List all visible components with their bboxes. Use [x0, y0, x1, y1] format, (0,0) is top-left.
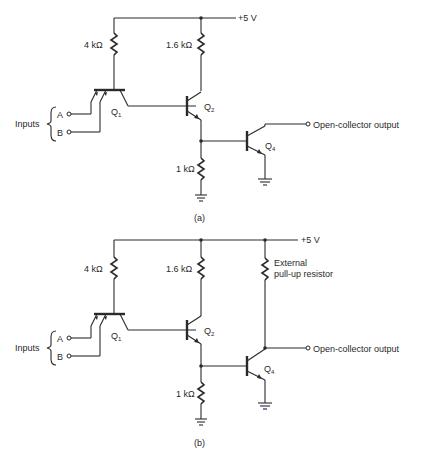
- input-b-label: B: [57, 352, 63, 362]
- resistor-1k-label: 1 kΩ: [176, 164, 195, 174]
- transistor-q2: [187, 92, 201, 141]
- resistor-pull-up: [262, 258, 268, 280]
- resistor-1-6k: [198, 257, 204, 279]
- transistor-q1: [91, 314, 196, 356]
- panel-a: +5 V 4 kΩ 1.6 kΩ Q1 A: [15, 13, 400, 223]
- output-terminal[interactable]: [306, 122, 310, 126]
- input-a-label: A: [57, 334, 63, 344]
- transistor-q2: [187, 316, 201, 366]
- input-brace: [47, 107, 56, 141]
- panel-b: +5 V 4 kΩ 1.6 kΩ External pull-up resist…: [15, 235, 400, 448]
- inputs-label: Inputs: [15, 119, 40, 129]
- pullup-label-line1: External: [274, 258, 307, 268]
- input-b-label: B: [57, 128, 63, 138]
- transistor-q1: [91, 90, 196, 132]
- input-a-label: A: [57, 110, 63, 120]
- resistor-1-6k: [198, 33, 204, 55]
- q4-label: Q4: [265, 141, 276, 152]
- output-terminal[interactable]: [306, 346, 310, 350]
- input-a-terminal[interactable]: [67, 336, 71, 340]
- resistor-1-6k-label: 1.6 kΩ: [166, 40, 193, 50]
- input-b-terminal[interactable]: [67, 354, 71, 358]
- transistor-q4: [247, 124, 306, 179]
- open-collector-ttl-diagram: +5 V 4 kΩ 1.6 kΩ Q1 A: [0, 0, 424, 455]
- ground-icon: [195, 419, 207, 425]
- resistor-1-6k-label: 1.6 kΩ: [166, 264, 193, 274]
- supply-label: +5 V: [238, 13, 257, 23]
- q1-label: Q1: [111, 107, 122, 118]
- inputs-label: Inputs: [15, 343, 40, 353]
- output-label: Open-collector output: [313, 344, 400, 354]
- resistor-1k: [198, 382, 204, 404]
- ground-icon: [195, 195, 207, 201]
- resistor-1k: [198, 158, 204, 180]
- q2-label: Q2: [204, 326, 215, 337]
- resistor-4k: [111, 33, 117, 55]
- ground-icon: [258, 403, 272, 409]
- q2-label: Q2: [204, 102, 215, 113]
- pullup-label-line2: pull-up resistor: [274, 269, 333, 279]
- panel-caption: (a): [194, 213, 205, 223]
- panel-caption: (b): [194, 438, 205, 448]
- resistor-4k-label: 4 kΩ: [84, 264, 103, 274]
- input-brace: [47, 331, 56, 365]
- supply-label: +5 V: [301, 235, 320, 245]
- q4-label: Q4: [264, 364, 275, 375]
- resistor-4k: [111, 257, 117, 279]
- transistor-q4: [247, 346, 306, 403]
- output-label: Open-collector output: [313, 120, 400, 130]
- ground-icon: [258, 179, 272, 185]
- resistor-4k-label: 4 kΩ: [84, 40, 103, 50]
- input-a-terminal[interactable]: [67, 112, 71, 116]
- resistor-1k-label: 1 kΩ: [176, 389, 195, 399]
- input-b-terminal[interactable]: [67, 130, 71, 134]
- q1-label: Q1: [111, 331, 122, 342]
